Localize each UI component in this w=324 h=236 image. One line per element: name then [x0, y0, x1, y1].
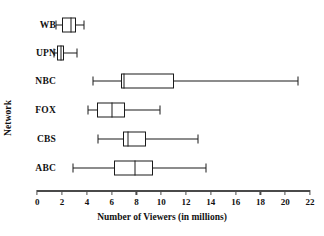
x-tick-label-0: 0	[35, 197, 40, 207]
x-tick-10	[161, 190, 162, 195]
x-tick-2	[61, 190, 62, 195]
x-tick-label-6: 6	[109, 197, 114, 207]
x-tick-22	[309, 190, 310, 195]
x-tick-label-16: 16	[231, 197, 240, 207]
x-tick-16	[235, 190, 236, 195]
x-axis-line	[37, 190, 310, 192]
x-tick-label-22: 22	[306, 197, 315, 207]
x-tick-label-4: 4	[85, 197, 90, 207]
x-tick-0	[37, 190, 38, 195]
x-tick-12	[185, 190, 186, 195]
x-tick-4	[86, 190, 87, 195]
x-tick-14	[210, 190, 211, 195]
whisker-low-abc	[73, 168, 114, 169]
whisker-high-abc	[153, 168, 206, 169]
x-tick-label-14: 14	[206, 197, 215, 207]
median-line-abc	[134, 161, 135, 176]
x-tick-label-20: 20	[281, 197, 290, 207]
x-axis-label: Number of Viewers (in millions)	[0, 212, 324, 222]
x-tick-6	[111, 190, 112, 195]
x-tick-20	[285, 190, 286, 195]
x-tick-18	[260, 190, 261, 195]
whisker-high-cap-abc	[205, 164, 206, 173]
x-tick-label-10: 10	[157, 197, 166, 207]
x-tick-label-2: 2	[60, 197, 65, 207]
x-tick-8	[136, 190, 137, 195]
x-tick-label-8: 8	[134, 197, 139, 207]
x-tick-label-18: 18	[256, 197, 265, 207]
box-plot-figure: Network WBUPNNBCFOXCBSABC 02468101214161…	[0, 0, 324, 236]
whisker-low-cap-abc	[72, 164, 73, 173]
x-tick-label-12: 12	[182, 197, 191, 207]
